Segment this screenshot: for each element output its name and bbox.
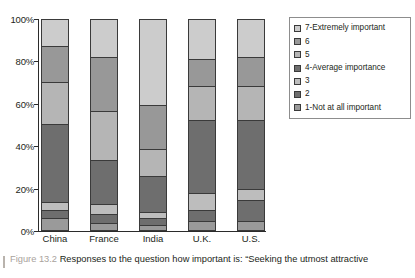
legend-swatch-icon bbox=[294, 91, 301, 98]
bar-segment bbox=[140, 177, 166, 213]
legend-item-label: 7-Extremely important bbox=[305, 24, 385, 32]
bar-segment bbox=[42, 83, 68, 125]
legend-item-label: 6 bbox=[305, 38, 310, 46]
legend-swatch-icon bbox=[294, 38, 301, 45]
legend-swatch-icon bbox=[294, 51, 301, 58]
x-axis-category-label: U.S. bbox=[231, 233, 271, 244]
bar-segment bbox=[42, 47, 68, 83]
bar-segment bbox=[140, 20, 166, 106]
bar-segment bbox=[238, 20, 264, 58]
bar-segment bbox=[238, 121, 264, 190]
bar-segment bbox=[91, 112, 117, 160]
legend-item[interactable]: 1-Not at all important bbox=[294, 101, 406, 114]
bar-china[interactable] bbox=[41, 19, 69, 231]
y-axis-tick-label: 40% bbox=[16, 141, 34, 152]
bar-segment bbox=[42, 203, 68, 211]
figure-container: 100% 80% 60% 40% 20% 0% ChinaFranceIndia… bbox=[0, 0, 415, 278]
caption-figure-number: Figure 13.2 bbox=[10, 254, 57, 264]
y-axis-tick-label: 0% bbox=[21, 226, 34, 237]
legend-item[interactable]: 4-Average importance bbox=[294, 62, 406, 75]
legend-item[interactable]: 7-Extremely important bbox=[294, 22, 406, 35]
stacked-bars bbox=[39, 19, 266, 231]
bar-segment bbox=[91, 215, 117, 223]
legend-swatch-icon bbox=[294, 25, 301, 32]
bar-segment bbox=[189, 194, 215, 211]
caption-body: Responses to the question how important … bbox=[60, 254, 369, 264]
bar-segment bbox=[238, 201, 264, 222]
legend-item-label: 1-Not at all important bbox=[305, 104, 381, 112]
bar-india[interactable] bbox=[139, 19, 167, 231]
legend-item[interactable]: 3 bbox=[294, 75, 406, 88]
bar-us[interactable] bbox=[237, 19, 265, 231]
bar-segment bbox=[42, 219, 68, 230]
bar-segment bbox=[238, 58, 264, 87]
y-axis-tick-label: 20% bbox=[16, 184, 34, 195]
bar-segment bbox=[189, 121, 215, 195]
chart-legend: 7-Extremely important654-Average importa… bbox=[289, 17, 411, 119]
bar-segment bbox=[140, 150, 166, 177]
legend-item[interactable]: 6 bbox=[294, 35, 406, 48]
bar-segment bbox=[91, 205, 117, 216]
x-axis-category-label: India bbox=[133, 233, 173, 244]
legend-item-label: 5 bbox=[305, 51, 310, 59]
bar-segment bbox=[140, 106, 166, 150]
bar-segment bbox=[91, 224, 117, 230]
bar-segment bbox=[238, 190, 264, 201]
bar-segment bbox=[91, 20, 117, 58]
legend-item-label: 2 bbox=[305, 90, 310, 98]
bar-segment bbox=[91, 161, 117, 205]
x-axis-category-labels: ChinaFranceIndiaU.K.U.S. bbox=[39, 233, 266, 247]
legend-swatch-icon bbox=[294, 78, 301, 85]
bar-segment bbox=[189, 20, 215, 60]
bar-segment bbox=[42, 125, 68, 203]
legend-item-label: 3 bbox=[305, 77, 310, 85]
x-axis-line bbox=[38, 231, 266, 232]
bar-segment bbox=[238, 222, 264, 230]
x-axis-category-label: U.K. bbox=[182, 233, 222, 244]
bar-france[interactable] bbox=[90, 19, 118, 231]
bar-segment bbox=[189, 87, 215, 121]
y-axis-tick-label: 100% bbox=[11, 14, 35, 25]
bar-segment bbox=[189, 222, 215, 230]
legend-item[interactable]: 2 bbox=[294, 88, 406, 101]
caption-text: Figure 13.2 Responses to the question ho… bbox=[10, 253, 368, 265]
bar-segment bbox=[42, 211, 68, 219]
bar-uk[interactable] bbox=[188, 19, 216, 231]
bar-segment bbox=[91, 58, 117, 113]
bar-segment bbox=[42, 20, 68, 47]
y-axis: 100% 80% 60% 40% 20% 0% bbox=[0, 0, 38, 246]
y-axis-tick-label: 60% bbox=[16, 99, 34, 110]
bar-segment bbox=[238, 87, 264, 121]
legend-item[interactable]: 5 bbox=[294, 48, 406, 61]
caption-rule bbox=[3, 256, 5, 268]
legend-swatch-icon bbox=[294, 104, 301, 111]
y-axis-tick-label: 80% bbox=[16, 56, 34, 67]
legend-swatch-icon bbox=[294, 65, 301, 72]
bar-segment bbox=[189, 211, 215, 222]
bar-segment bbox=[140, 226, 166, 230]
x-axis-category-label: France bbox=[84, 233, 124, 244]
bar-segment bbox=[189, 60, 215, 87]
figure-caption: Figure 13.2 Responses to the question ho… bbox=[0, 253, 415, 278]
x-axis-category-label: China bbox=[35, 233, 75, 244]
legend-item-label: 4-Average importance bbox=[305, 64, 385, 72]
